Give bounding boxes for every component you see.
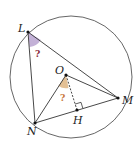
segment-OH-dashed [66, 75, 77, 110]
label-O: O [55, 64, 64, 77]
segment-LM [28, 32, 118, 98]
label-N: N [26, 125, 37, 138]
right-angle-mark [75, 102, 83, 108]
point-O [64, 73, 67, 76]
angle-label-O: ? [60, 93, 65, 103]
label-H: H [72, 114, 83, 127]
label-M: M [121, 94, 134, 107]
point-M [116, 96, 119, 99]
geometry-diagram: L O M N H ? ? [0, 0, 140, 145]
point-L [26, 30, 29, 33]
label-L: L [17, 22, 25, 35]
point-H [75, 108, 78, 111]
angle-label-L: ? [35, 49, 40, 59]
